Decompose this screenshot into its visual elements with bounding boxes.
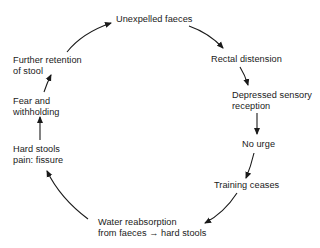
node-depressed-sensory-reception: Depressed sensory reception	[232, 90, 312, 111]
node-hard-stools-pain-fissure: Hard stools pain: fissure	[13, 144, 63, 165]
node-label: Unexpelled faeces	[116, 14, 192, 25]
node-label-line2: pain: fissure	[13, 155, 63, 166]
node-label: No urge	[242, 139, 275, 150]
node-label-line1: Water reabsorption	[98, 217, 206, 228]
node-label-line2: withholding	[13, 107, 60, 118]
arrow-water-to-hardstools	[47, 171, 88, 219]
node-water-reabsorption: Water reabsorption from faeces → hard st…	[98, 217, 206, 238]
node-rectal-distension: Rectal distension	[211, 54, 282, 65]
node-no-urge: No urge	[242, 139, 275, 150]
node-label-line2: from faeces → hard stools	[98, 228, 206, 239]
node-label: Rectal distension	[211, 54, 282, 65]
node-label: Training ceases	[214, 180, 279, 191]
arrow-further-to-unexpelled	[67, 23, 111, 52]
node-fear-and-withholding: Fear and withholding	[13, 96, 60, 117]
node-label-line1: Depressed sensory	[232, 90, 312, 101]
arrow-unexpelled-to-rectal	[189, 26, 223, 48]
arrow-fear-to-further	[44, 75, 51, 92]
arrow-rectal-to-depressed	[240, 67, 248, 85]
node-training-ceases: Training ceases	[214, 180, 279, 191]
arrow-training-to-water	[205, 193, 237, 223]
node-unexpelled-faeces: Unexpelled faeces	[116, 14, 192, 25]
node-label-line1: Further retention	[13, 55, 82, 66]
node-further-retention-of-stool: Further retention of stool	[13, 55, 82, 76]
node-label-line2: reception	[232, 101, 312, 112]
cycle-arrows	[0, 0, 320, 248]
node-label-line1: Fear and	[13, 96, 60, 107]
node-label-line2: of stool	[13, 66, 82, 77]
arrow-nourge-to-training	[246, 153, 254, 178]
node-label-line1: Hard stools	[13, 144, 63, 155]
